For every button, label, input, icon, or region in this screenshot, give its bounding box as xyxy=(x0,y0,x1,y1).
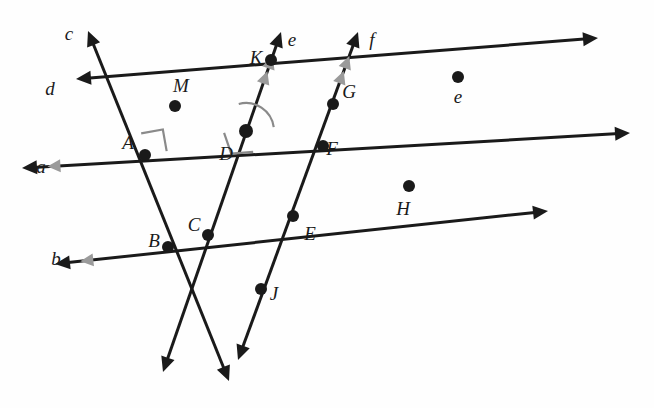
point-B xyxy=(162,241,174,253)
point-A xyxy=(139,149,151,161)
point-label-E: E xyxy=(304,224,316,243)
arrowhead-d-end xyxy=(582,32,598,46)
line-label-a: a xyxy=(36,157,46,176)
point-e xyxy=(452,71,464,83)
point-label-F: F xyxy=(326,139,338,158)
point-label-A: A xyxy=(122,133,134,152)
point-label-J: J xyxy=(270,284,278,303)
point-D xyxy=(239,124,253,138)
arrowhead-f-end xyxy=(237,344,250,360)
line-label-b: b xyxy=(51,249,61,268)
arrowhead-e-start xyxy=(269,32,282,48)
arrowhead-d-start xyxy=(76,71,92,85)
line-c xyxy=(92,41,225,371)
point-label-C: C xyxy=(188,215,201,234)
line-label-d: d xyxy=(45,79,55,98)
arrowhead-f-start xyxy=(346,32,359,48)
lines-group xyxy=(22,31,630,381)
point-label-D: D xyxy=(219,144,233,163)
point-K xyxy=(265,54,277,66)
point-C xyxy=(202,229,214,241)
angle-at-A xyxy=(141,130,166,152)
tick-e-2 xyxy=(257,71,269,85)
point-H xyxy=(403,180,415,192)
line-f xyxy=(242,42,355,350)
point-label-e2: e xyxy=(454,87,462,106)
point-label-M: M xyxy=(173,76,189,95)
arrowhead-a-start xyxy=(22,160,37,174)
point-label-G: G xyxy=(342,82,356,101)
line-d xyxy=(87,39,587,78)
point-label-B: B xyxy=(148,231,160,250)
point-E xyxy=(287,210,299,222)
arrowhead-e-end xyxy=(161,356,174,372)
point-M xyxy=(169,100,181,112)
geometry-figure xyxy=(0,0,654,408)
arrowhead-b-end xyxy=(532,206,548,220)
diagram-canvas: cdabefKMGeADFHBCEJ xyxy=(0,0,654,408)
tick-a-1 xyxy=(47,159,60,172)
line-label-f: f xyxy=(369,30,374,49)
arrowhead-a-end xyxy=(615,127,630,141)
line-label-c: c xyxy=(65,24,73,43)
point-label-H: H xyxy=(396,199,410,218)
line-b xyxy=(66,212,538,263)
point-G xyxy=(327,98,339,110)
point-J xyxy=(255,283,267,295)
line-label-e: e xyxy=(288,30,296,49)
point-label-K: K xyxy=(250,48,263,67)
